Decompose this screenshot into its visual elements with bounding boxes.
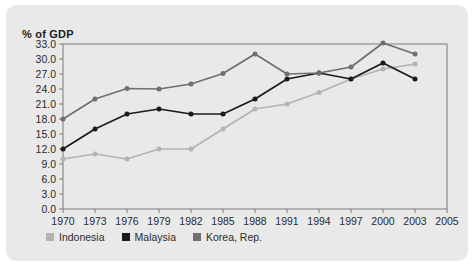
legend-label: Indonesia [59, 231, 105, 243]
data-point [93, 97, 98, 102]
data-point [157, 107, 162, 112]
legend-item[interactable]: Korea, Rep. [193, 231, 262, 243]
x-axis-tick-label: 2005 [435, 215, 459, 227]
y-axis-tick-label: 0.0 [41, 203, 56, 215]
data-point [61, 117, 66, 122]
data-point [413, 62, 418, 67]
data-point [413, 52, 418, 57]
series-line-korea-rep [63, 43, 415, 119]
y-axis-tick-label: 21.0 [36, 98, 57, 110]
data-point [157, 87, 162, 92]
y-axis-tick-label: 9.0 [41, 158, 56, 170]
data-point [221, 112, 226, 117]
y-axis-tick-label: 27.0 [36, 68, 57, 80]
x-axis-tick-label: 1988 [243, 215, 267, 227]
legend-item[interactable]: Indonesia [46, 231, 105, 243]
data-point [61, 147, 66, 152]
data-point [285, 102, 290, 107]
y-axis-tick-label: 33.0 [36, 38, 57, 50]
legend-label: Korea, Rep. [206, 231, 262, 243]
data-point [157, 147, 162, 152]
x-axis-tick-label: 1970 [51, 215, 75, 227]
data-point [317, 71, 322, 76]
x-axis-tick-label: 1997 [339, 215, 363, 227]
y-axis-tick-label: 15.0 [36, 128, 57, 140]
data-point [349, 77, 354, 82]
y-axis-tick-label: 18.0 [36, 113, 57, 125]
data-point [125, 157, 130, 162]
legend-swatch-icon [46, 233, 54, 241]
data-point [253, 52, 258, 57]
data-point [349, 65, 354, 70]
y-axis-tick-label: 12.0 [36, 143, 57, 155]
y-axis-tick-label: 6.0 [41, 173, 56, 185]
data-point [285, 72, 290, 77]
data-point [125, 86, 130, 91]
data-point [253, 97, 258, 102]
y-axis-tick-label: 30.0 [36, 53, 57, 65]
x-axis-tick-label: 1994 [307, 215, 331, 227]
data-point [381, 61, 386, 66]
data-point [413, 77, 418, 82]
data-point [317, 90, 322, 95]
x-axis-tick-label: 1973 [83, 215, 107, 227]
line-chart-svg: 0.03.06.09.012.015.018.021.024.027.030.0… [0, 0, 474, 266]
legend-swatch-icon [193, 233, 201, 241]
x-axis-tick-label: 2000 [371, 215, 395, 227]
data-point [221, 127, 226, 132]
data-point [189, 82, 194, 87]
y-axis-tick-label: 24.0 [36, 83, 57, 95]
data-point [381, 67, 386, 72]
data-point [381, 41, 386, 46]
x-axis-tick-label: 1976 [115, 215, 139, 227]
chart-legend: IndonesiaMalaysiaKorea, Rep. [46, 231, 262, 243]
legend-swatch-icon [122, 233, 130, 241]
y-axis-tick-label: 3.0 [41, 188, 56, 200]
legend-item[interactable]: Malaysia [122, 231, 176, 243]
x-axis-tick-label: 1985 [211, 215, 235, 227]
data-point [125, 112, 130, 117]
data-point [285, 77, 290, 82]
x-axis-tick-label: 1982 [179, 215, 203, 227]
data-point [189, 147, 194, 152]
data-point [253, 107, 258, 112]
legend-label: Malaysia [135, 231, 176, 243]
data-point [93, 152, 98, 157]
x-axis-tick-label: 2003 [403, 215, 427, 227]
data-point [221, 71, 226, 76]
data-point [93, 127, 98, 132]
series-line-indonesia [63, 64, 415, 159]
chart-plot-area: 0.03.06.09.012.015.018.021.024.027.030.0… [0, 0, 474, 266]
data-point [61, 157, 66, 162]
x-axis-tick-label: 1991 [275, 215, 299, 227]
data-point [189, 112, 194, 117]
x-axis-tick-label: 1979 [147, 215, 171, 227]
